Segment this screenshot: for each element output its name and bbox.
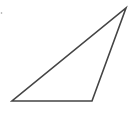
triangle-shape [12,8,126,101]
stray-mark [1,12,3,14]
triangle-diagram [0,0,129,129]
